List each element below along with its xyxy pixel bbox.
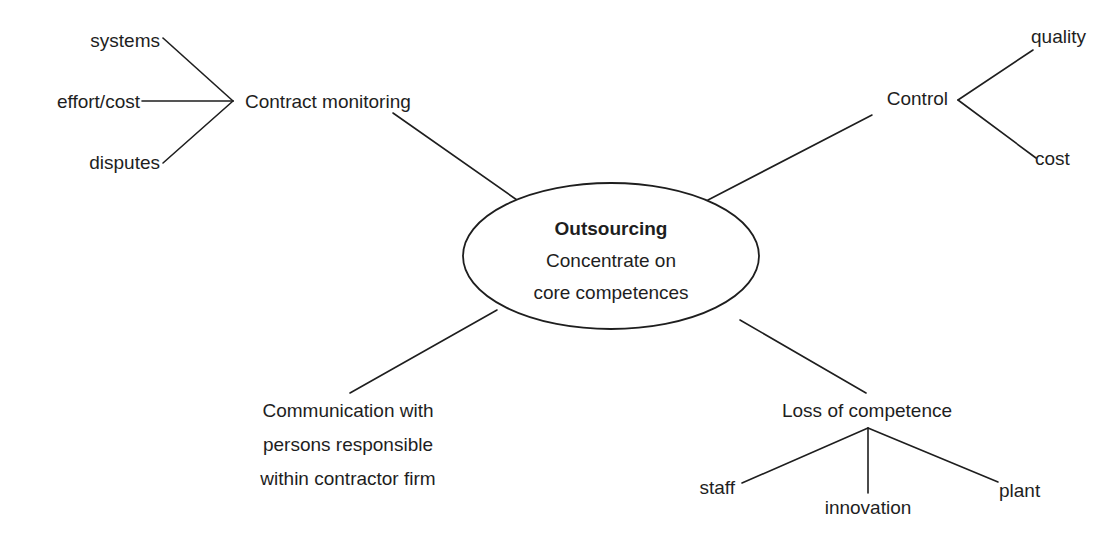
edge-loss-to-center bbox=[740, 320, 866, 393]
edge-disputes bbox=[163, 101, 233, 163]
leaf-plant: plant bbox=[999, 480, 1041, 501]
node-communication-line-3: within contractor firm bbox=[259, 468, 435, 489]
edge-contract-monitoring-to-center bbox=[393, 113, 517, 200]
leaf-innovation: innovation bbox=[825, 497, 912, 518]
edge-quality bbox=[958, 50, 1033, 100]
center-node: Outsourcing Concentrate on core competen… bbox=[463, 183, 759, 329]
leaf-systems: systems bbox=[90, 30, 160, 51]
node-loss-of-competence: Loss of competence bbox=[782, 400, 952, 421]
leaf-staff: staff bbox=[699, 477, 735, 498]
edge-cost bbox=[958, 100, 1036, 158]
center-line-1: Concentrate on bbox=[546, 250, 676, 271]
node-communication-line-1: Communication with bbox=[262, 400, 433, 421]
node-control: Control bbox=[887, 88, 948, 109]
branch-communication: Communication with persons responsible w… bbox=[259, 310, 497, 489]
edge-systems bbox=[163, 38, 233, 101]
branch-loss-of-competence: Loss of competence staff innovation plan… bbox=[699, 320, 1040, 518]
edge-communication-to-center bbox=[350, 310, 497, 393]
leaf-disputes: disputes bbox=[89, 152, 160, 173]
leaf-quality: quality bbox=[1031, 26, 1086, 47]
leaf-effort-cost: effort/cost bbox=[57, 91, 141, 112]
branch-control: Control quality cost bbox=[708, 26, 1086, 201]
node-contract-monitoring: Contract monitoring bbox=[245, 91, 411, 112]
edge-control-to-center bbox=[708, 115, 872, 200]
center-title: Outsourcing bbox=[555, 218, 668, 239]
branch-contract-monitoring: systems effort/cost disputes Contract mo… bbox=[57, 30, 517, 201]
node-communication-line-2: persons responsible bbox=[263, 434, 433, 455]
edge-plant bbox=[868, 428, 998, 482]
leaf-cost: cost bbox=[1035, 148, 1071, 169]
center-line-2: core competences bbox=[533, 282, 688, 303]
edge-staff bbox=[742, 428, 868, 483]
outsourcing-mind-map: systems effort/cost disputes Contract mo… bbox=[0, 0, 1115, 547]
